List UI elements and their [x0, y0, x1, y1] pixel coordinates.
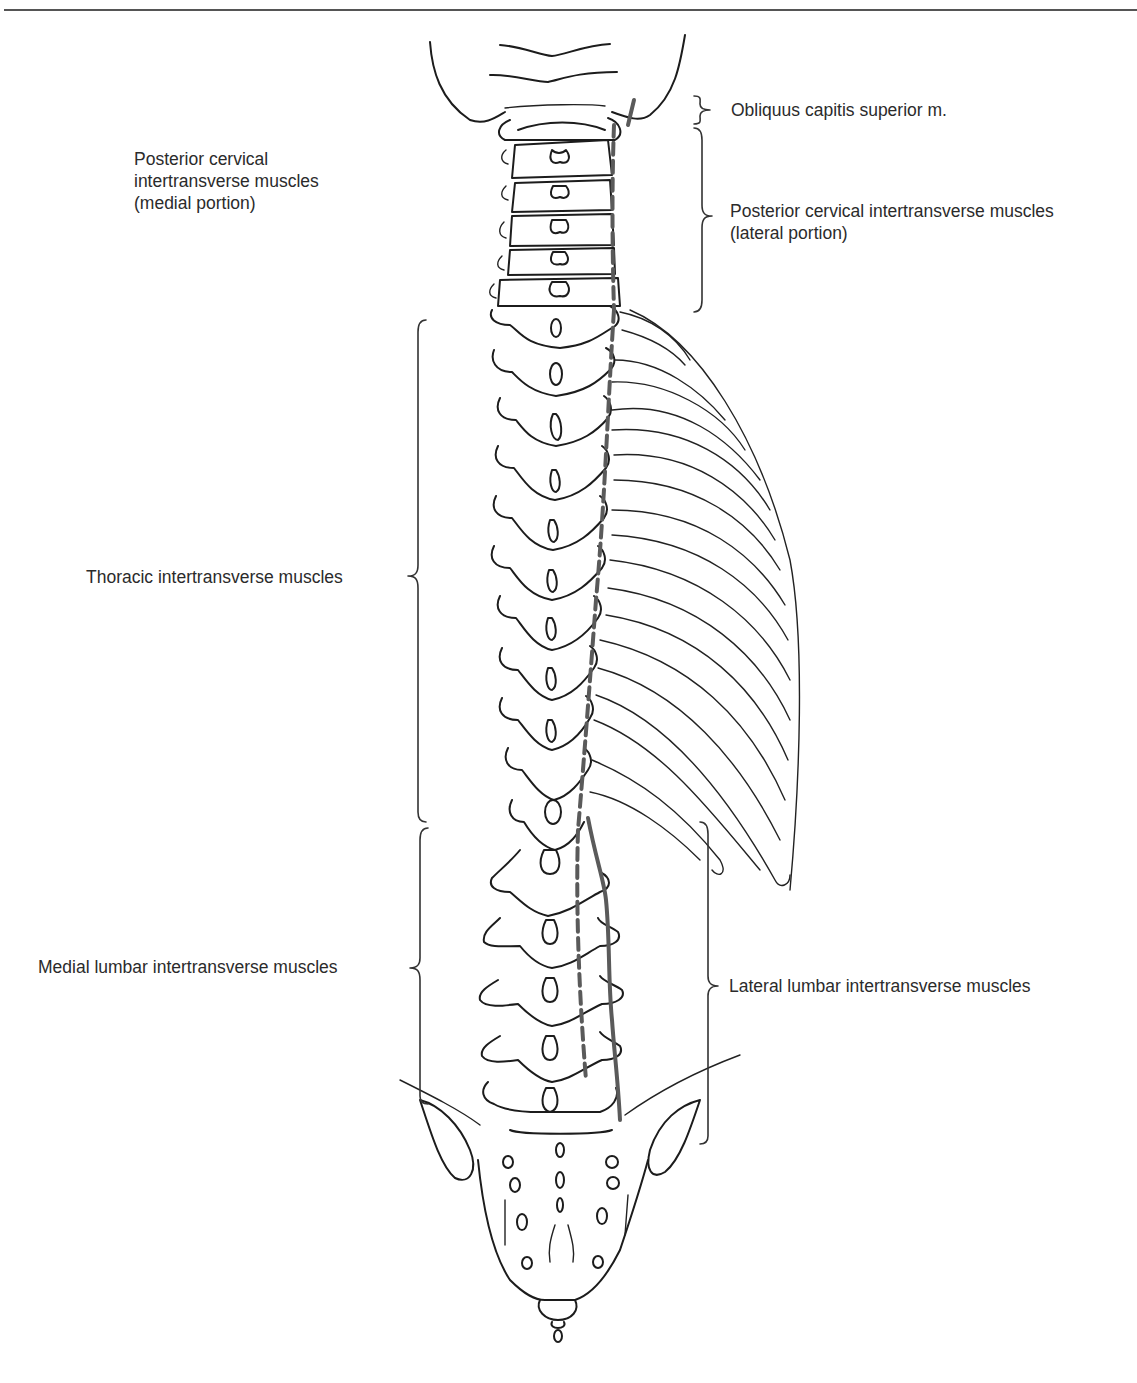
label-thoracic-intertransverse: Thoracic intertransverse muscles	[86, 566, 343, 588]
label-medial-lumbar-intertransverse: Medial lumbar intertransverse muscles	[38, 956, 338, 978]
label-lateral-lumbar-intertransverse: Lateral lumbar intertransverse muscles	[729, 975, 1031, 997]
thoracic-vertebrae	[491, 306, 619, 850]
skull-base	[430, 35, 685, 122]
rib-cage	[590, 310, 799, 890]
brace-post-cervical-lateral	[694, 128, 712, 312]
pelvis-sacrum	[400, 1055, 740, 1342]
lumbar-vertebrae	[480, 850, 623, 1112]
brace-lateral-lumbar	[700, 822, 718, 1144]
brace-medial-lumbar	[410, 828, 428, 1104]
label-posterior-cervical-medial: Posterior cervical intertransverse muscl…	[134, 148, 319, 214]
label-obliquus-capitis-superior: Obliquus capitis superior m.	[731, 99, 947, 121]
cervical-vertebrae	[490, 118, 621, 306]
intertransverse-muscles	[577, 100, 634, 1120]
brace-thoracic	[408, 320, 426, 822]
label-posterior-cervical-lateral: Posterior cervical intertransverse muscl…	[730, 200, 1054, 244]
label-braces	[408, 96, 718, 1144]
brace-obliquus	[694, 96, 710, 124]
